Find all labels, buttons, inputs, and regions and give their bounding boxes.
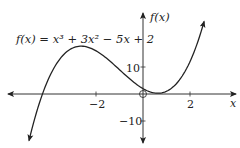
y-axis-label: f(x) — [150, 12, 170, 24]
x-tick-label-2: 2 — [187, 99, 194, 110]
y-tick-label-neg10: −10 — [119, 116, 142, 127]
x-axis-label: x — [230, 98, 236, 109]
function-formula-label: f(x) = x³ + 3x² − 5x + 2 — [16, 34, 154, 46]
x-tick-label-neg2: −2 — [89, 99, 105, 110]
y-tick-label-10: 10 — [126, 63, 140, 74]
